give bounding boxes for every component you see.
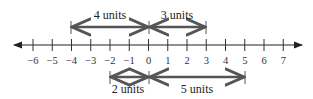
interval-label: 2 units xyxy=(112,82,145,96)
number-line-diagram: −6−5−4−3−2−101234567 4 units 3 units 2 u… xyxy=(0,0,313,99)
tick-label: −2 xyxy=(104,55,115,66)
tick-label: 5 xyxy=(242,55,247,66)
axis-ticks: −6−5−4−3−2−101234567 xyxy=(27,39,285,66)
tick-label: 6 xyxy=(261,55,266,66)
interval-label: 3 units xyxy=(161,8,194,22)
tick-label: 1 xyxy=(165,55,170,66)
tick-label: −6 xyxy=(27,55,38,66)
interval-label: 5 units xyxy=(181,82,214,96)
tick-label: −5 xyxy=(47,55,58,66)
bottom-interval-5-units: 5 units xyxy=(150,71,245,96)
tick-label: 0 xyxy=(146,55,151,66)
tick-label: −1 xyxy=(124,55,135,66)
top-interval-4-units: 4 units xyxy=(71,8,148,34)
tick-label: −4 xyxy=(66,55,78,66)
tick-label: 2 xyxy=(184,55,189,66)
tick-label: 7 xyxy=(281,55,286,66)
tick-label: −3 xyxy=(85,55,96,66)
top-interval-3-units: 3 units xyxy=(149,8,206,34)
tick-label: 3 xyxy=(204,55,209,66)
tick-label: 4 xyxy=(223,55,229,66)
bottom-interval-2-units: 2 units xyxy=(110,71,149,96)
interval-label: 4 units xyxy=(94,8,127,22)
